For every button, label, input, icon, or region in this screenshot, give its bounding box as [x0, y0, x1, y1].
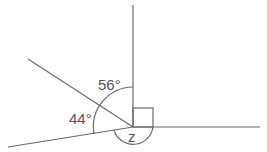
angle-arc-large [93, 87, 133, 134]
angle-label-z: z [128, 128, 136, 145]
angles-diagram: 56° 44° z [0, 0, 267, 152]
angle-label-56: 56° [98, 76, 121, 93]
right-angle-marker [133, 108, 153, 127]
angle-label-44: 44° [69, 110, 92, 127]
